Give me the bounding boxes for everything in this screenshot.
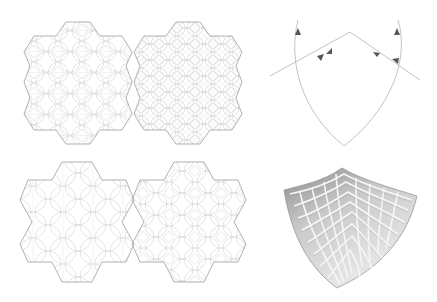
gridshell-render [282,160,432,295]
reflection-path [270,32,420,80]
hexagonal-tiling-pattern [22,20,134,146]
tiling-bottom-right [130,160,248,284]
star-tiling-pattern [130,160,248,284]
arrow-left-in-icon [317,54,324,61]
arrow-up-right-icon [394,28,400,35]
tiling-top-left [22,20,134,146]
right-arch-curve [344,20,401,146]
pointed-arch-reflection-diagram [270,10,430,150]
arrow-right-out-icon [373,52,380,57]
hexagonal-tiling-pattern [132,20,244,146]
arrow-left-out-icon [326,48,332,54]
arrow-diagram [270,10,430,150]
tiling-top-right [132,20,244,146]
tiling-bottom-left [18,160,136,284]
curved-grid-shell-3d [282,160,432,295]
star-tiling-pattern [18,160,136,284]
